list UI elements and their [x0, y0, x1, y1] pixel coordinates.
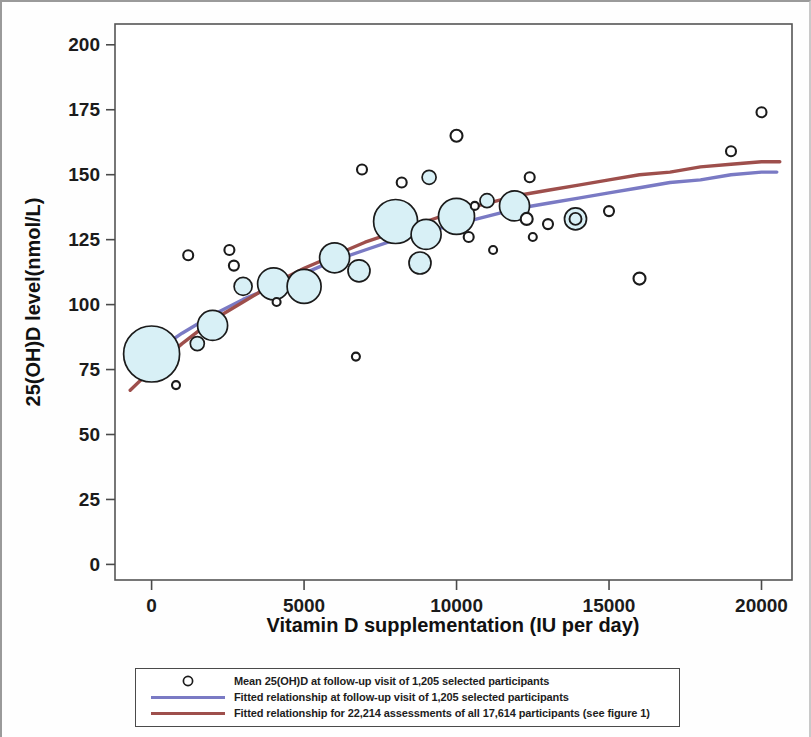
x-tick-label: 10000: [430, 595, 483, 616]
bubble-marker: [273, 298, 281, 306]
y-axis-tick-labels: 0255075100125150175200: [68, 34, 100, 575]
plot-frame: [115, 24, 792, 580]
x-tick-label: 5000: [283, 595, 325, 616]
legend-row-blue-line: Fitted relationship at follow-up visit o…: [142, 689, 673, 705]
bubble-marker: [726, 146, 736, 156]
y-axis-ticks: [106, 45, 115, 565]
bubble-marker-inner: [570, 213, 582, 225]
y-tick-label: 200: [68, 34, 100, 55]
y-tick-label: 175: [68, 99, 100, 120]
bubble-marker: [183, 250, 193, 260]
blue-line-icon: [142, 689, 234, 705]
bubble-marker: [471, 202, 479, 210]
bubble-marker: [198, 310, 228, 340]
bubble-marker: [489, 246, 497, 254]
bubble-marker: [411, 219, 441, 249]
legend-row-markers: Mean 25(OH)D at follow-up visit of 1,205…: [142, 673, 673, 689]
y-tick-label: 75: [79, 359, 101, 380]
y-tick-label: 50: [79, 424, 100, 445]
bubble-marker: [543, 219, 553, 229]
bubble-marker: [190, 337, 204, 351]
bubble-marker: [287, 269, 321, 303]
bubble-marker: [357, 165, 367, 175]
x-tick-label: 20000: [735, 595, 788, 616]
red-line-icon: [142, 705, 234, 721]
legend-label-red-line: Fitted relationship for 22,214 assessmen…: [234, 707, 650, 719]
bubble-marker: [634, 273, 646, 285]
chart-legend: Mean 25(OH)D at follow-up visit of 1,205…: [135, 668, 680, 727]
bubble-marker: [124, 326, 180, 382]
y-tick-label: 25: [79, 489, 101, 510]
bubble-marker: [348, 260, 370, 282]
x-tick-label: 0: [146, 595, 157, 616]
legend-row-red-line: Fitted relationship for 22,214 assessmen…: [142, 705, 673, 721]
bubble-marker: [229, 261, 239, 271]
bubble-marker: [397, 178, 407, 188]
y-tick-label: 125: [68, 229, 100, 250]
bubble-marker: [604, 206, 614, 216]
x-axis-ticks: [152, 580, 762, 590]
bubble-marker: [529, 233, 537, 241]
bubble-marker: [480, 194, 494, 208]
bubble-marker: [521, 213, 533, 225]
bubble-marker: [224, 245, 234, 255]
bubble-marker: [757, 107, 767, 117]
chart-plot-area: 0255075100125150175200 05000100001500020…: [2, 2, 811, 662]
bubble-marker: [422, 170, 436, 184]
bubble-marker: [464, 232, 474, 242]
bubble-marker: [525, 172, 535, 182]
x-axis-tick-labels: 05000100001500020000: [146, 595, 788, 616]
bubble-marker: [258, 268, 290, 300]
legend-label-markers: Mean 25(OH)D at follow-up visit of 1,205…: [234, 675, 549, 687]
legend-label-blue-line: Fitted relationship at follow-up visit o…: [234, 691, 569, 703]
bubble-marker: [172, 381, 180, 389]
x-axis-title: Vitamin D supplementation (IU per day): [266, 614, 639, 636]
scatter-chart-svg: 0255075100125150175200 05000100001500020…: [2, 2, 811, 662]
y-tick-label: 150: [68, 164, 100, 185]
y-tick-label: 100: [68, 294, 100, 315]
open-circle-marker-icon: [142, 673, 234, 689]
bubble-marker: [451, 130, 463, 142]
bubble-marker: [234, 277, 252, 295]
bubble-marker: [352, 353, 360, 361]
x-tick-label: 15000: [583, 595, 636, 616]
figure-root: 0255075100125150175200 05000100001500020…: [0, 0, 811, 737]
bubble-marker: [320, 243, 350, 273]
bubble-marker: [409, 252, 431, 274]
y-axis-title: 25(OH)D level(nmol/L): [22, 198, 44, 407]
y-tick-label: 0: [89, 554, 100, 575]
bubble-marker: [439, 198, 475, 234]
